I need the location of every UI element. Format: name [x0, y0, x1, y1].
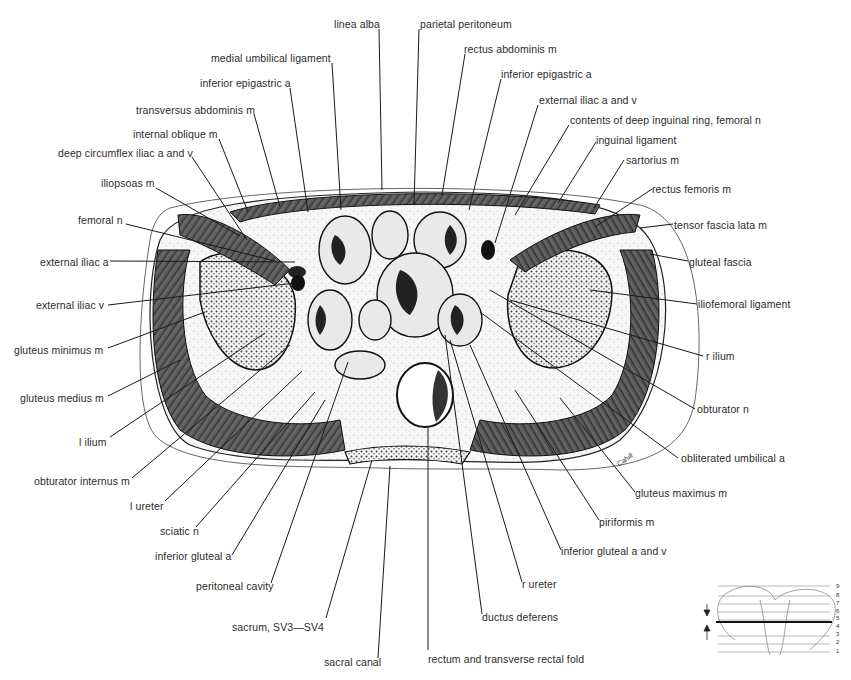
- level-number-selected: 4: [836, 623, 839, 629]
- label-iliofemoral-ligament: iliofemoral ligament: [698, 298, 790, 310]
- label-iliopsoas: iliopsoas m: [101, 177, 155, 189]
- label-rectus-femoris: rectus femoris m: [652, 183, 731, 195]
- label-sacrum: sacrum, SV3—SV4: [232, 621, 324, 633]
- label-gluteus-maximus: gluteus maximus m: [635, 487, 727, 499]
- label-peritoneal-cavity: peritoneal cavity: [196, 580, 274, 592]
- label-medial-umbilical-ligament: medial umbilical ligament: [211, 52, 331, 64]
- level-arrows: [704, 604, 710, 640]
- label-piriformis: piriformis m: [599, 516, 654, 528]
- level-number: 7: [836, 600, 839, 606]
- level-number: 3: [836, 631, 839, 637]
- label-transversus-abdominis: transversus abdominis m: [136, 104, 255, 116]
- label-r-ilium: r ilium: [706, 350, 735, 362]
- label-linea-alba: linea alba: [334, 18, 380, 30]
- label-femoral-n: femoral n: [78, 214, 123, 226]
- label-gluteus-minimus: gluteus minimus m: [14, 344, 103, 356]
- label-obturator-n: obturator n: [697, 403, 749, 415]
- label-external-iliac-v: external iliac v: [36, 299, 104, 311]
- label-ductus-deferens: ductus deferens: [482, 611, 558, 623]
- pelvis-cross-section-illustration: [0, 0, 851, 680]
- label-sacral-canal: sacral canal: [324, 656, 381, 668]
- level-number: 5: [836, 615, 839, 621]
- label-rectum-transverse-rectal-fold: rectum and transverse rectal fold: [428, 653, 584, 665]
- level-number: 6: [836, 608, 839, 614]
- level-number: 1: [836, 648, 839, 654]
- level-key-diagram: [716, 586, 835, 655]
- label-external-iliac-a-and-v: external iliac a and v: [539, 94, 637, 106]
- label-gluteal-fascia: gluteal fascia: [689, 256, 752, 268]
- label-sartorius: sartorius m: [626, 154, 679, 166]
- label-l-ureter: l ureter: [130, 500, 163, 512]
- label-rectus-abdominis: rectus abdominis m: [464, 43, 557, 55]
- label-inguinal-ligament: inguinal ligament: [596, 134, 677, 146]
- level-number: 9: [836, 583, 839, 589]
- label-l-ilium: l ilium: [79, 436, 107, 448]
- label-parietal-peritoneum: parietal peritoneum: [420, 18, 512, 30]
- label-r-ureter: r ureter: [522, 578, 557, 590]
- label-obliterated-umbilical-a: obliterated umbilical a: [681, 452, 785, 464]
- label-inferior-epigastric-a-left: inferior epigastric a: [200, 77, 291, 89]
- level-number: 2: [836, 639, 839, 645]
- label-tensor-fascia-lata: tensor fascia lata m: [674, 219, 767, 231]
- label-gluteus-medius: gluteus medius m: [20, 392, 104, 404]
- label-contents-deep-inguinal-ring: contents of deep inguinal ring, femoral …: [570, 114, 761, 126]
- label-internal-oblique: internal oblique m: [133, 128, 218, 140]
- label-inferior-epigastric-a-right: inferior epigastric a: [501, 68, 592, 80]
- label-inferior-gluteal-a: inferior gluteal a: [155, 550, 232, 562]
- label-external-iliac-a: external iliac a: [40, 256, 109, 268]
- level-number: 8: [836, 592, 839, 598]
- label-obturator-internus: obturator internus m: [34, 475, 130, 487]
- label-sciatic-n: sciatic n: [160, 525, 199, 537]
- label-inferior-gluteal-a-and-v: inferior gluteal a and v: [561, 545, 667, 557]
- label-deep-circumflex-iliac: deep circumflex iliac a and v: [58, 147, 193, 159]
